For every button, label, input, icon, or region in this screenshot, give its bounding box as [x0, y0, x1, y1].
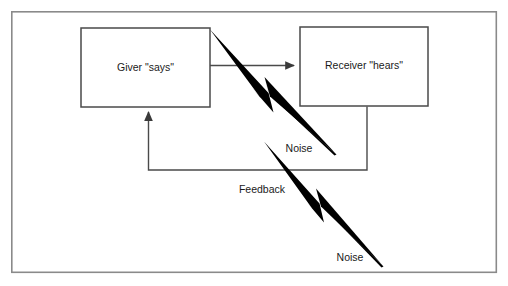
noise-upper-label: Noise: [286, 142, 313, 154]
diagram-canvas: Giver "says" Receiver "hears" Noise Nois…: [0, 0, 508, 286]
node-receiver[interactable]: Receiver "hears": [300, 27, 428, 106]
noise-lower-label: Noise: [337, 251, 364, 263]
communication-model-diagram: Giver "says" Receiver "hears" Noise Nois…: [0, 0, 508, 286]
noise-bolt-lower: Noise: [264, 142, 384, 268]
node-giver[interactable]: Giver "says": [81, 28, 210, 107]
noise-upper-bolt-shape: [210, 30, 274, 113]
giver-label: Giver "says": [117, 61, 174, 73]
feedback-connector: [149, 107, 368, 171]
feedback-label: Feedback: [239, 183, 286, 195]
receiver-label: Receiver "hears": [325, 59, 403, 71]
